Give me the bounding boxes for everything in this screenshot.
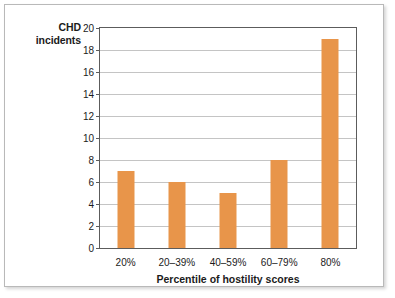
y-axis-tick-mark: [96, 28, 100, 29]
y-axis-tick-mark: [96, 248, 100, 249]
gridline: [100, 50, 356, 51]
y-axis-tick-label: 0: [88, 243, 94, 254]
y-axis-tick-mark: [96, 226, 100, 227]
y-axis-tick-label: 18: [83, 45, 94, 56]
y-axis-tick-label: 8: [88, 155, 94, 166]
gridline: [100, 160, 356, 161]
x-axis-tick-label: 20%: [116, 257, 136, 268]
y-axis-tick-label: 16: [83, 67, 94, 78]
y-axis-tick-label: 2: [88, 221, 94, 232]
y-axis-title-line-2: incidents: [13, 34, 81, 47]
y-axis-tick-mark: [96, 94, 100, 95]
x-axis-tick-label: 80%: [320, 257, 340, 268]
y-axis-tick-mark: [96, 72, 100, 73]
bar: [220, 193, 237, 248]
y-axis-tick-mark: [96, 160, 100, 161]
bar: [117, 171, 134, 248]
gridline: [100, 72, 356, 73]
chart-figure-frame: CHD incidents 0246810121416182020%20–39%…: [4, 4, 384, 287]
x-axis-tick-label: 20–39%: [158, 257, 195, 268]
y-axis-tick-label: 6: [88, 177, 94, 188]
gridline: [100, 182, 356, 183]
y-axis-tick-mark: [96, 182, 100, 183]
plot-area: 0246810121416182020%20–39%40–59%60–79%80…: [99, 27, 357, 249]
gridline: [100, 94, 356, 95]
x-axis-tick-label: 60–79%: [261, 257, 298, 268]
gridline: [100, 138, 356, 139]
y-axis-tick-mark: [96, 138, 100, 139]
x-axis-tick-label: 40–59%: [210, 257, 247, 268]
y-axis-tick-mark: [96, 204, 100, 205]
bar: [322, 39, 339, 248]
y-axis-tick-label: 20: [83, 23, 94, 34]
y-axis-tick-mark: [96, 50, 100, 51]
y-axis-tick-label: 14: [83, 89, 94, 100]
y-axis-tick-label: 4: [88, 199, 94, 210]
bar: [168, 182, 185, 248]
y-axis-title: CHD incidents: [13, 21, 81, 46]
gridline: [100, 116, 356, 117]
y-axis-tick-label: 10: [83, 133, 94, 144]
x-axis-title: Percentile of hostility scores: [99, 273, 357, 285]
y-axis-title-line-1: CHD: [13, 21, 81, 34]
y-axis-tick-mark: [96, 116, 100, 117]
bar: [271, 160, 288, 248]
y-axis-tick-label: 12: [83, 111, 94, 122]
